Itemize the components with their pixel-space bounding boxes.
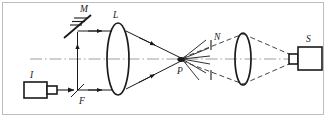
label-mirror-M: M	[79, 4, 89, 14]
label-focus-point-P: P	[176, 66, 183, 76]
ray-focus-to-lens2-upper	[182, 34, 243, 58]
ray-lens-to-focus-upper	[126, 31, 181, 58]
detector-S	[289, 47, 322, 70]
ray-focus-to-lens2-lower	[182, 61, 243, 84]
label-source-I: I	[29, 70, 34, 80]
optical-diagram-figure: I F M	[0, 0, 326, 117]
label-beamsplitter-F: F	[78, 96, 85, 106]
label-aperture-N: N	[213, 32, 221, 42]
label-lens-L: L	[112, 10, 118, 20]
optical-diagram-canvas: I F M	[0, 0, 326, 117]
label-detector-S: S	[306, 34, 311, 44]
light-source-I	[24, 82, 57, 98]
ray-lens-to-focus-lower	[126, 61, 181, 89]
